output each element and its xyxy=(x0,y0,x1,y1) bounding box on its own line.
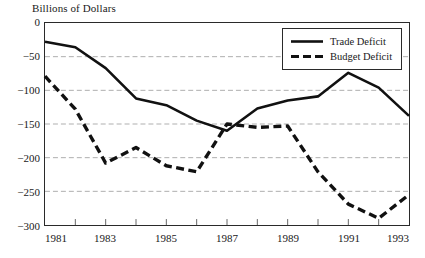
x-tick-label: 1991 xyxy=(338,232,360,244)
solid-line-icon xyxy=(290,36,324,47)
x-tick-label: 1993 xyxy=(387,232,409,244)
chart-legend: Trade Deficit Budget Deficit xyxy=(282,28,402,70)
x-tick-label: 1989 xyxy=(277,232,299,244)
x-axis-tick-labels: 1981198319851987198919911993 xyxy=(44,232,410,252)
y-tick-label: −250 xyxy=(17,186,40,198)
legend-label-budget-deficit: Budget Deficit xyxy=(330,51,392,62)
legend-item-budget-deficit: Budget Deficit xyxy=(290,49,394,64)
x-tick-label: 1987 xyxy=(216,232,238,244)
y-tick-label: 0 xyxy=(35,16,41,28)
y-tick-label: −100 xyxy=(17,84,40,96)
dashed-line-icon xyxy=(290,51,324,62)
y-tick-label: −50 xyxy=(23,50,40,62)
y-tick-label: −300 xyxy=(17,220,40,232)
legend-label-trade-deficit: Trade Deficit xyxy=(330,36,386,47)
series-line xyxy=(45,76,409,218)
x-tick-label: 1983 xyxy=(94,232,116,244)
x-tick-label: 1985 xyxy=(155,232,177,244)
y-tick-label: −200 xyxy=(17,152,40,164)
y-axis-tick-labels: 0−50−100−150−200−250−300 xyxy=(0,22,40,226)
chart-title: Billions of Dollars xyxy=(32,2,116,14)
chart-container: Billions of Dollars 0−50−100−150−200−250… xyxy=(0,0,425,258)
legend-item-trade-deficit: Trade Deficit xyxy=(290,34,394,49)
y-tick-label: −150 xyxy=(17,118,40,130)
x-tick-label: 1981 xyxy=(45,232,67,244)
